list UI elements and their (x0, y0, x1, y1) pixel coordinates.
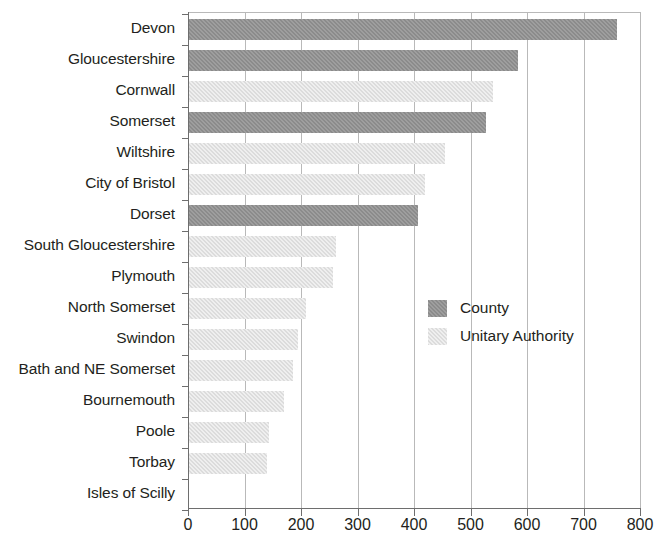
category-label: Poole (0, 415, 182, 446)
bar (188, 19, 617, 40)
legend-label: Unitary Authority (460, 327, 574, 345)
x-axis-tick (358, 509, 359, 516)
x-axis-tick-label: 400 (401, 516, 428, 534)
y-axis-line (188, 12, 189, 509)
bar (188, 298, 306, 319)
x-axis-tick (640, 509, 641, 516)
x-axis-tick (527, 509, 528, 516)
bar (188, 422, 269, 443)
x-axis-tick (584, 509, 585, 516)
x-axis-tick (471, 509, 472, 516)
category-label: Somerset (0, 105, 182, 136)
category-label: Plymouth (0, 260, 182, 291)
x-axis-tick-label: 100 (231, 516, 258, 534)
bar (188, 143, 445, 164)
legend-label: County (460, 299, 509, 317)
x-axis-tick-labels: 0100200300400500600700800 (0, 516, 662, 542)
y-axis-tick (182, 510, 188, 511)
bar (188, 391, 284, 412)
category-label: Wiltshire (0, 136, 182, 167)
x-axis-tick (414, 509, 415, 516)
legend-item-county: County (428, 294, 574, 322)
bar (188, 453, 267, 474)
x-gridline (584, 13, 585, 509)
category-label: North Somerset (0, 291, 182, 322)
category-label: Bath and NE Somerset (0, 353, 182, 384)
plot-area (188, 12, 641, 509)
category-label: Dorset (0, 198, 182, 229)
x-gridline (527, 13, 528, 509)
category-label: South Gloucestershire (0, 229, 182, 260)
x-axis-tick-label: 800 (627, 516, 654, 534)
bar-chart: DevonGloucestershireCornwallSomersetWilt… (0, 0, 662, 555)
x-axis-tick-label: 300 (344, 516, 371, 534)
x-axis-tick (301, 509, 302, 516)
x-axis-tick-label: 600 (514, 516, 541, 534)
x-axis-tick-label: 500 (457, 516, 484, 534)
category-label: Gloucestershire (0, 43, 182, 74)
category-label: Cornwall (0, 74, 182, 105)
category-label: Torbay (0, 446, 182, 477)
category-label: City of Bristol (0, 167, 182, 198)
x-axis-line (188, 508, 641, 509)
category-axis-labels: DevonGloucestershireCornwallSomersetWilt… (0, 12, 182, 508)
bar (188, 267, 333, 288)
bar (188, 112, 486, 133)
x-axis-tick-label: 200 (288, 516, 315, 534)
bar (188, 329, 298, 350)
x-axis-tick-label: 700 (570, 516, 597, 534)
bar (188, 50, 518, 71)
category-label: Bournemouth (0, 384, 182, 415)
category-label: Swindon (0, 322, 182, 353)
legend-item-unitary: Unitary Authority (428, 322, 574, 350)
category-label: Devon (0, 12, 182, 43)
x-axis-tick (188, 509, 189, 516)
legend-swatch-unitary (428, 328, 447, 345)
bar (188, 205, 418, 226)
x-gridline (640, 13, 641, 509)
bar (188, 236, 336, 257)
bar (188, 81, 493, 102)
bar (188, 360, 293, 381)
legend-swatch-county (428, 300, 447, 317)
category-label: Isles of Scilly (0, 477, 182, 508)
x-axis-tick-label: 0 (184, 516, 193, 534)
x-axis-tick (245, 509, 246, 516)
bar (188, 174, 425, 195)
chart-legend: CountyUnitary Authority (428, 294, 574, 350)
